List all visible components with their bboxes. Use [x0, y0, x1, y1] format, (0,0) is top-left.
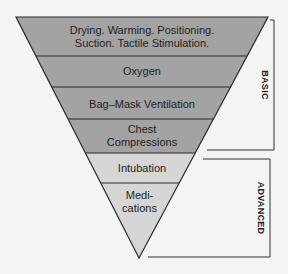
layer-5-line1: Intubation [16, 162, 268, 175]
layer-3-line1: Bag–Mask Ventilation [16, 98, 268, 111]
layer-2-line1: Oxygen [16, 65, 268, 78]
resuscitation-pyramid-diagram: Drying. Warming. Positioning. Suction. T… [0, 0, 288, 274]
layer-6-line1: Medi- [16, 189, 263, 202]
advanced-label: ADVANCED [256, 173, 266, 243]
layer-4-line2: Compressions [16, 136, 268, 149]
layer-1-label: Drying. Warming. Positioning. Suction. T… [16, 24, 268, 50]
layer-1-line2: Suction. Tactile Stimulation. [16, 37, 268, 50]
layer-6-line2: cations [16, 202, 263, 215]
layer-5-label: Intubation [16, 162, 268, 175]
layer-3-label: Bag–Mask Ventilation [16, 98, 268, 111]
layer-1-line1: Drying. Warming. Positioning. [16, 24, 268, 37]
layer-6-label: Medi- cations [16, 189, 263, 215]
layer-2-label: Oxygen [16, 65, 268, 78]
layer-4-line1: Chest [16, 123, 268, 136]
basic-label: BASIC [260, 60, 270, 110]
layer-4-label: Chest Compressions [16, 123, 268, 149]
